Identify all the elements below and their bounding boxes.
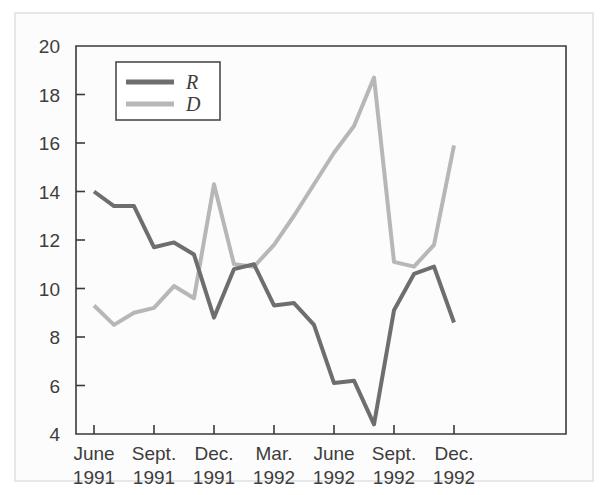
x-axis-tick-marks	[94, 425, 454, 434]
x-tick-label-year-6: 1992	[433, 467, 475, 488]
x-tick-label-month-6: Dec.	[434, 443, 473, 464]
x-tick-label-year-1: 1991	[133, 467, 175, 488]
y-tick-label-16: 16	[39, 133, 60, 154]
y-axis-tick-marks	[76, 95, 85, 386]
x-tick-label-month-2: Dec.	[194, 443, 233, 464]
x-tick-label-month-4: June	[313, 443, 354, 464]
x-tick-label-year-0: 1991	[73, 467, 115, 488]
x-tick-label-year-2: 1991	[193, 467, 235, 488]
y-tick-label-18: 18	[39, 85, 60, 106]
x-tick-label-year-3: 1992	[253, 467, 295, 488]
chart-legend: RD	[116, 62, 220, 120]
x-tick-label-month-5: Sept.	[372, 443, 416, 464]
y-tick-label-10: 10	[39, 279, 60, 300]
line-chart: 468101214161820 June1991Sept.1991Dec.199…	[0, 0, 608, 495]
y-tick-label-8: 8	[49, 327, 60, 348]
x-tick-label-month-0: June	[73, 443, 114, 464]
y-tick-label-6: 6	[49, 376, 60, 397]
x-tick-label-month-3: Mar.	[256, 443, 293, 464]
y-tick-label-20: 20	[39, 36, 60, 57]
x-tick-label-year-5: 1992	[373, 467, 415, 488]
chart-figure: 468101214161820 June1991Sept.1991Dec.199…	[0, 0, 608, 495]
y-tick-label-12: 12	[39, 230, 60, 251]
y-axis-tick-labels: 468101214161820	[39, 36, 61, 445]
legend-label-R: R	[185, 71, 198, 93]
x-axis-tick-labels: June1991Sept.1991Dec.1991Mar.1992June199…	[73, 443, 475, 488]
x-tick-label-month-1: Sept.	[132, 443, 176, 464]
legend-box	[116, 62, 220, 120]
y-tick-label-14: 14	[39, 182, 61, 203]
data-series-group	[94, 78, 454, 425]
legend-label-D: D	[185, 93, 201, 115]
x-tick-label-year-4: 1992	[313, 467, 355, 488]
y-tick-label-4: 4	[49, 424, 60, 445]
